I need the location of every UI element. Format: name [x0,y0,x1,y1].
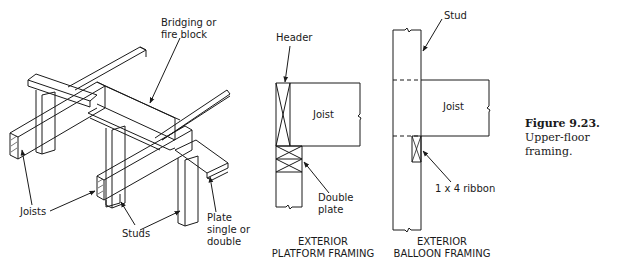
balloon-joist-label: Joist [443,101,464,113]
studs-label: Studs [122,228,150,240]
bridging-arrow [150,38,180,103]
plate-label: Plate single or double [207,212,250,248]
double-plate-arrow [304,162,329,193]
platform-caption: EXTERIOR PLATFORM FRAMING [268,236,378,260]
joists-arrow-1 [22,150,32,205]
plate-arrow [210,177,216,212]
ribbon-arrow [423,151,451,182]
studs-arrow-1 [121,202,135,225]
platform-framing [276,83,361,209]
balloon-framing [393,28,490,232]
joists-label: Joists [20,206,46,218]
balloon-caption: EXTERIOR BALLOON FRAMING [386,236,498,260]
figure-title: Upper-floor framing. [525,131,621,159]
figure-number: Figure 9.23. [525,117,600,130]
platform-joist-label: Joist [313,109,334,121]
figure-caption: Figure 9.23. Upper-floor framing. [525,117,621,159]
isometric-framing [10,47,230,226]
header-label: Header [276,32,312,44]
stud-arrow [423,19,442,51]
double-plate-label: Double plate [318,192,353,216]
ribbon-label: 1 x 4 ribbon [435,183,495,195]
joists-arrow-2 [50,191,95,211]
stud-label: Stud [444,10,467,22]
header-arrow [285,46,290,82]
bridging-label: Bridging or fire block [161,17,216,41]
